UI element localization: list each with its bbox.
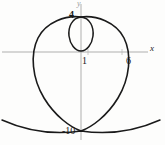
plot-canvas [0, 0, 165, 145]
plot-figure: y x 4 1 6 -10 [0, 0, 165, 145]
